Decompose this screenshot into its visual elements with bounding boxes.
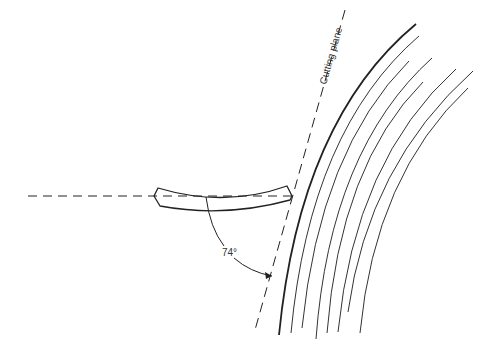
growth-ring-curve: [327, 82, 423, 333]
growth-ring-curve: [360, 88, 468, 333]
angle-arc: [206, 197, 224, 246]
cutting-plane-diagram: Cutting plane 74°: [0, 0, 498, 349]
growth-ring-curve: [338, 69, 456, 332]
growth-ring-curve: [348, 71, 473, 312]
growth-ring-curve: [316, 58, 432, 339]
gouge-tool: [154, 186, 292, 211]
log-surface-curve: [279, 24, 416, 335]
cutting-plane-label: Cutting plane: [317, 25, 344, 85]
angle-label: 74°: [222, 247, 237, 258]
